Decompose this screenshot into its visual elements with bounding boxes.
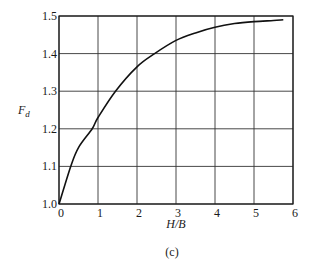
x-tick-label: 4	[214, 206, 220, 220]
x-tick-label: 6	[292, 206, 298, 220]
y-axis-label-subscript: d	[25, 109, 30, 119]
y-tick-label: 1.3	[42, 84, 57, 98]
y-tick-label: 1.0	[42, 197, 57, 211]
y-axis-label: Fd	[17, 103, 30, 119]
x-tick-label: 2	[136, 206, 142, 220]
x-tick-label: 0	[58, 206, 64, 220]
grid-lines	[59, 16, 293, 204]
y-tick-label: 1.4	[42, 47, 57, 61]
data-curve	[59, 20, 283, 204]
x-tick-label: 5	[253, 206, 259, 220]
chart-canvas: 0123456 1.01.11.21.31.41.5 Fd H/B (c)	[0, 0, 316, 265]
figure-caption: (c)	[165, 245, 178, 259]
x-tick-label: 1	[97, 206, 103, 220]
x-axis-label: H/B	[165, 217, 186, 231]
y-tick-label: 1.1	[42, 159, 57, 173]
y-tick-labels: 1.01.11.21.31.41.5	[42, 9, 57, 211]
y-tick-label: 1.2	[42, 122, 57, 136]
y-tick-label: 1.5	[42, 9, 57, 23]
